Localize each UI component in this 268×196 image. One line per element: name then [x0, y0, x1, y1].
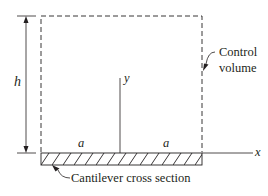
cross-section-label: Cantilever cross section — [71, 172, 190, 185]
diagram-canvas — [0, 0, 268, 196]
cantilever-cross-section — [41, 153, 202, 165]
control-volume-leader — [206, 52, 215, 64]
control-volume-boundary — [41, 16, 202, 152]
height-label: h — [14, 75, 21, 89]
cross-section-leader — [58, 170, 70, 178]
control-volume-label-line2: volume — [219, 62, 257, 75]
left-width-label: a — [78, 137, 84, 150]
x-axis-label: x — [255, 146, 261, 159]
y-axis-label: y — [124, 72, 130, 85]
right-width-label: a — [163, 137, 169, 150]
control-volume-label-line1: Control — [219, 46, 257, 59]
